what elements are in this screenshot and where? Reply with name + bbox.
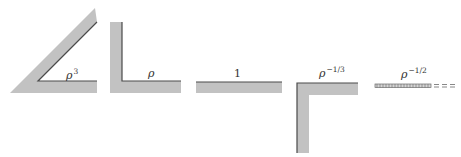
flat-band (196, 82, 282, 93)
reentrant-label-exponent: −1/3 (326, 65, 344, 74)
right-angle-shape (110, 22, 181, 93)
crack-label-base: ρ (401, 68, 407, 81)
right-angle-label-base: ρ (148, 67, 154, 80)
flat-label-base: 1 (234, 67, 241, 80)
wedge-label: ρ3 (66, 68, 78, 81)
reentrant-band (297, 83, 358, 153)
wedge-shape (10, 8, 97, 93)
reentrant-label-base: ρ (319, 67, 325, 80)
crack-shape (375, 84, 455, 88)
reentrant-corner-label: ρ−1/3 (319, 66, 345, 79)
right-angle-band (110, 22, 181, 93)
right-angle-label: ρ (148, 68, 154, 79)
wedge-label-base: ρ (66, 69, 72, 82)
crack-hatched-band (375, 84, 431, 88)
flat-shape (196, 82, 282, 93)
reentrant-corner-shape (297, 83, 358, 153)
wedge-band (10, 8, 97, 93)
crack-dashed-extension (434, 85, 455, 88)
wedge-label-exponent: 3 (73, 67, 78, 76)
flat-label: 1 (234, 68, 241, 79)
crack-label-exponent: −1/2 (408, 66, 426, 75)
crack-label: ρ−1/2 (401, 67, 427, 80)
